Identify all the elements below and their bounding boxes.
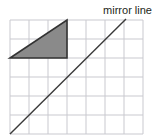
- diagram-canvas: mirror line: [0, 0, 156, 138]
- canvas-background: [0, 0, 156, 138]
- reflection-diagram: mirror line: [0, 0, 156, 138]
- mirror-line-label: mirror line: [103, 4, 152, 16]
